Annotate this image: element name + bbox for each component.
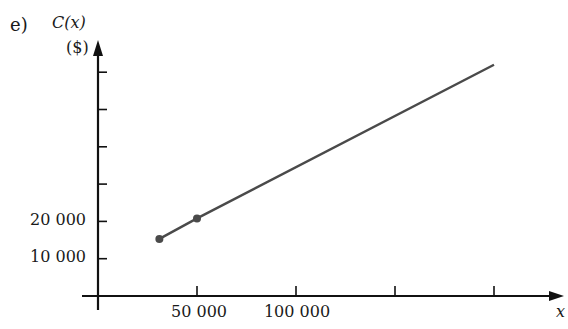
line-chart [0, 0, 568, 329]
x-axis-arrow-icon [549, 291, 564, 301]
y-axis-arrow-icon [93, 40, 103, 56]
data-point [193, 214, 201, 222]
data-point [155, 235, 163, 243]
cost-line [159, 65, 494, 239]
x-ticks [197, 286, 494, 296]
y-ticks [98, 72, 107, 259]
